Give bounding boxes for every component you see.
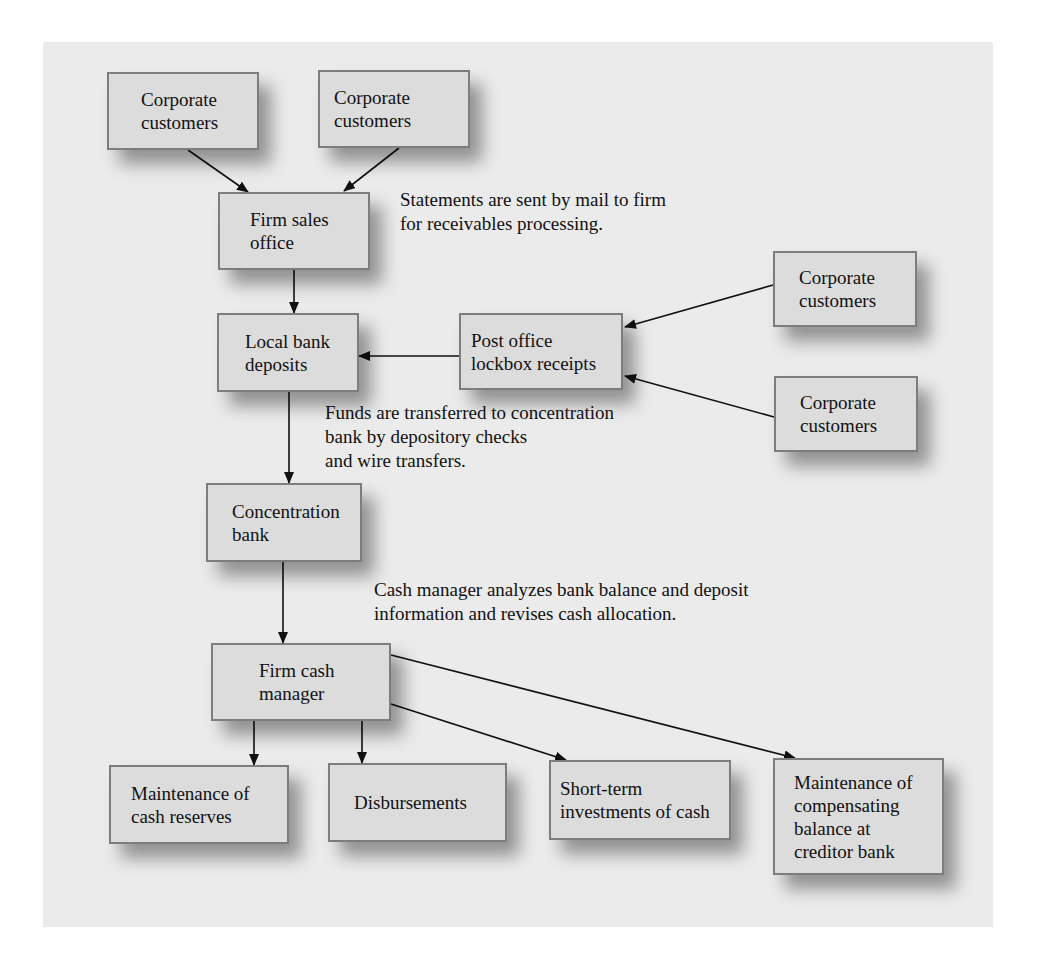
- note-statements: Statements are sent by mail to firm for …: [400, 188, 666, 236]
- node-label: Short-term investments of cash: [560, 777, 710, 823]
- node-disb: Disbursements: [328, 763, 507, 842]
- node-corp2: Corporate customers: [318, 70, 470, 148]
- node-label: Corporate customers: [141, 88, 218, 134]
- node-label: Firm cash manager: [259, 659, 334, 705]
- node-corp4: Corporate customers: [774, 376, 918, 452]
- node-label: Corporate customers: [334, 86, 411, 132]
- node-label: Maintenance of cash reserves: [131, 782, 250, 828]
- note-funds: Funds are transferred to concentration b…: [325, 401, 614, 473]
- node-reserves: Maintenance of cash reserves: [109, 765, 289, 844]
- node-label: Post office lockbox receipts: [471, 329, 596, 375]
- node-label: Local bank deposits: [245, 330, 330, 376]
- node-conc: Concentration bank: [206, 483, 362, 562]
- node-cashmgr: Firm cash manager: [211, 643, 391, 721]
- node-label: Disbursements: [354, 791, 467, 814]
- node-label: Maintenance of compensating balance at c…: [794, 771, 913, 863]
- node-corp3: Corporate customers: [773, 251, 917, 327]
- node-lockbox: Post office lockbox receipts: [459, 313, 623, 390]
- node-comp: Maintenance of compensating balance at c…: [773, 758, 944, 875]
- node-sales: Firm sales office: [218, 192, 370, 270]
- note-cash-manager: Cash manager analyzes bank balance and d…: [374, 578, 749, 626]
- node-label: Corporate customers: [799, 266, 876, 312]
- node-label: Concentration bank: [232, 500, 340, 546]
- node-corp1: Corporate customers: [107, 72, 259, 150]
- node-local: Local bank deposits: [217, 313, 359, 392]
- node-label: Firm sales office: [250, 208, 329, 254]
- node-shortterm: Short-term investments of cash: [549, 760, 731, 840]
- node-label: Corporate customers: [800, 391, 877, 437]
